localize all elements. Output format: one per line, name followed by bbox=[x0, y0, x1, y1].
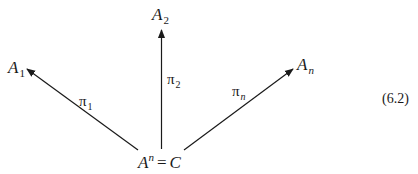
apex-base: A bbox=[138, 153, 148, 172]
pi-1-symbol: π bbox=[79, 93, 87, 109]
apex-equals: = bbox=[157, 153, 167, 172]
node-apex: An=C bbox=[138, 152, 181, 171]
pi-2-symbol: π bbox=[167, 71, 175, 87]
label-pi-1: π1 bbox=[79, 94, 93, 112]
node-a1: A1 bbox=[8, 59, 25, 79]
node-a1-subscript: 1 bbox=[19, 67, 25, 79]
label-pi-2: π2 bbox=[167, 72, 181, 90]
pi-n-symbol: π bbox=[232, 83, 240, 99]
equation-number: (6.2) bbox=[382, 92, 409, 106]
pi-1-subscript: 1 bbox=[88, 101, 93, 112]
arrow-pi-n bbox=[184, 69, 293, 150]
node-an-base: A bbox=[297, 55, 307, 74]
node-a2-subscript: 2 bbox=[163, 14, 169, 26]
pi-2-subscript: 2 bbox=[176, 79, 181, 90]
apex-superscript: n bbox=[148, 151, 154, 163]
label-pi-n: πn bbox=[232, 84, 246, 102]
node-a1-base: A bbox=[8, 58, 18, 77]
node-an: An bbox=[297, 56, 314, 76]
node-a2-base: A bbox=[152, 5, 162, 24]
diagram-arrows bbox=[0, 0, 418, 174]
apex-rhs: C bbox=[169, 153, 180, 172]
pi-n-subscript: n bbox=[241, 91, 246, 102]
node-a2: A2 bbox=[152, 6, 169, 26]
node-an-subscript: n bbox=[308, 64, 314, 76]
